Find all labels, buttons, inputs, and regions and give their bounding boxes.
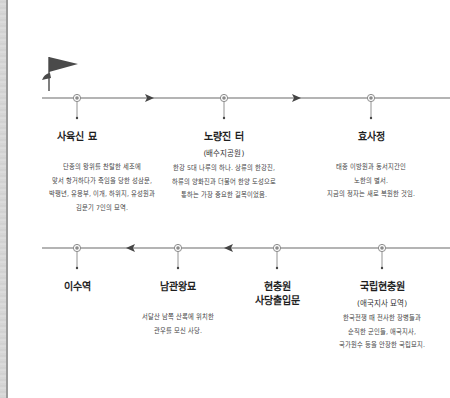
top-timeline — [42, 94, 450, 119]
desc-line: 한국전쟁 때 전사한 장병들과 — [339, 311, 425, 325]
timeline-node — [220, 94, 227, 119]
title-line: 사당출입문 — [255, 294, 300, 308]
desc-line: 통하는 가장 중요한 길목이었음. — [172, 188, 276, 202]
stop-description: 한강 5대 나루의 하나. 상류의 한강진, 하류의 양화진과 더불어 한양 도… — [172, 161, 276, 202]
desc-line: 태종 이방원과 동서지간인 — [327, 160, 415, 174]
timeline-node — [273, 244, 280, 269]
stop-subtitle: (애국지사 묘역) — [357, 299, 407, 309]
bottom-timeline — [42, 244, 450, 269]
stop-title: 남관왕묘 — [160, 280, 196, 294]
timeline-node — [73, 94, 80, 119]
title-line: 현충원 — [255, 280, 300, 294]
stop-description: 서달산 남쪽 산록에 위치한 관우를 모신 사당. — [142, 310, 214, 337]
stop-title: 효사정 — [358, 130, 385, 144]
timeline-node — [367, 94, 374, 119]
desc-line: 국가원수 등을 안장한 국립묘지. — [339, 338, 425, 352]
stop-description: 단종의 왕위를 찬탈한 세조에 맞서 항거하다가 죽임을 당한 성삼문, 박팽년… — [49, 160, 155, 214]
desc-line: 노한의 별서. — [327, 174, 415, 188]
stop-title: 현충원 사당출입문 — [255, 280, 300, 308]
desc-line: 맞서 항거하다가 죽임을 당한 성삼문, — [49, 174, 155, 188]
desc-line: 하류의 양화진과 더불어 한양 도성으로 — [172, 175, 276, 189]
desc-line: 관우를 모신 사당. — [142, 324, 214, 338]
timeline-node — [378, 244, 385, 269]
desc-line: 지금의 정자는 새로 복원한 것임. — [327, 187, 415, 201]
stop-description: 태종 이방원과 동서지간인 노한의 별서. 지금의 정자는 새로 복원한 것임. — [327, 160, 415, 201]
desc-line: 순직한 군인들, 애국지사, — [339, 325, 425, 339]
stop-title: 국립현충원 — [360, 280, 405, 294]
stop-subtitle: (배수지공원) — [204, 149, 245, 159]
stop-title: 사육신 묘 — [57, 130, 96, 144]
stop-title: 이수역 — [64, 280, 91, 294]
desc-line: 한강 5대 나루의 하나. 상류의 한강진, — [172, 161, 276, 175]
desc-line: 김문기 7인의 묘역. — [49, 201, 155, 215]
timeline-node — [73, 244, 80, 269]
flag-icon — [42, 57, 78, 91]
timeline-node — [174, 244, 181, 269]
stop-description: 한국전쟁 때 전사한 장병들과 순직한 군인들, 애국지사, 국가원수 등을 안… — [339, 311, 425, 352]
desc-line: 박팽년, 유응부, 이개, 하위지, 유성원과 — [49, 187, 155, 201]
desc-line: 단종의 왕위를 찬탈한 세조에 — [49, 160, 155, 174]
desc-line: 서달산 남쪽 산록에 위치한 — [142, 310, 214, 324]
stop-title: 노량진 터 — [204, 130, 243, 144]
